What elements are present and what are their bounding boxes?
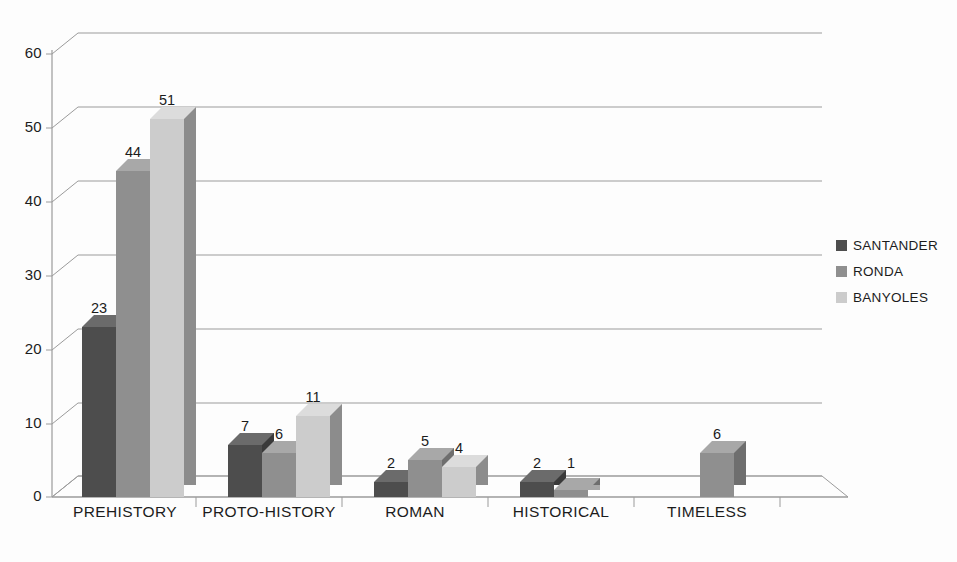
y-tick-50: 50 <box>4 118 42 135</box>
x-tick-historical: HISTORICAL <box>488 503 634 521</box>
bar-proto-history-banyoles <box>296 416 330 497</box>
y-tick-0: 0 <box>4 487 42 504</box>
bar-face <box>82 327 116 497</box>
bar-roman-banyoles <box>442 467 476 497</box>
bar-value-label: 44 <box>116 144 150 160</box>
bar-value-label: 6 <box>262 426 296 442</box>
bar-value-label: 4 <box>442 440 476 456</box>
y-tick-30: 30 <box>4 266 42 283</box>
bar-face <box>700 453 734 497</box>
bar-value-label: 11 <box>296 389 330 405</box>
bar-prehistory-ronda <box>116 171 150 497</box>
y-tick-20: 20 <box>4 340 42 357</box>
bar-face <box>116 171 150 497</box>
bar-value-label: 1 <box>554 455 588 471</box>
bar-value-label: 7 <box>228 418 262 434</box>
legend-swatch-icon <box>836 292 847 303</box>
legend-label: RONDA <box>853 264 903 279</box>
x-tick-timeless: TIMELESS <box>634 503 780 521</box>
bar-side <box>184 107 196 485</box>
bar-chart: 60 50 40 30 20 10 0 23 44 51 <box>0 0 957 562</box>
y-tick-60: 60 <box>4 44 42 61</box>
bar-face <box>442 467 476 497</box>
legend-item-ronda: RONDA <box>836 258 954 284</box>
bar-face <box>374 482 408 497</box>
x-tick-proto-history: PROTO-HISTORY <box>196 503 342 521</box>
bar-value-label: 5 <box>408 433 442 449</box>
legend-item-banyoles: BANYOLES <box>836 284 954 310</box>
y-tick-40: 40 <box>4 192 42 209</box>
bar-roman-ronda <box>408 460 442 497</box>
legend-swatch-icon <box>836 266 847 277</box>
bar-face <box>228 445 262 497</box>
bar-value-label: 2 <box>520 455 554 471</box>
gridline-60 <box>52 33 822 54</box>
bar-historical-ronda <box>554 490 588 497</box>
bar-face <box>296 416 330 497</box>
bar-face <box>554 490 588 497</box>
x-tick-roman: ROMAN <box>342 503 488 521</box>
legend-label: SANTANDER <box>853 238 938 253</box>
bar-prehistory-banyoles <box>150 119 184 497</box>
bar-historical-santander <box>520 482 554 497</box>
bar-value-label: 51 <box>150 92 184 108</box>
bar-face <box>408 460 442 497</box>
x-tick-prehistory: PREHISTORY <box>54 503 196 521</box>
bar-value-label: 23 <box>82 300 116 316</box>
bar-roman-santander <box>374 482 408 497</box>
y-tick-10: 10 <box>4 414 42 431</box>
legend-item-santander: SANTANDER <box>836 232 954 258</box>
legend-swatch-icon <box>836 240 847 251</box>
bar-face <box>520 482 554 497</box>
legend-label: BANYOLES <box>853 290 928 305</box>
bar-prehistory-santander <box>82 327 116 497</box>
chart-legend: SANTANDER RONDA BANYOLES <box>836 232 954 310</box>
bar-side <box>330 404 342 485</box>
bar-face <box>150 119 184 497</box>
bar-proto-history-santander <box>228 445 262 497</box>
bar-value-label: 2 <box>374 455 408 471</box>
bar-value-label: 6 <box>700 426 734 442</box>
bar-proto-history-ronda <box>262 453 296 497</box>
bar-face <box>262 453 296 497</box>
bar-top <box>554 478 600 490</box>
plot-area: 60 50 40 30 20 10 0 23 44 51 <box>0 0 957 562</box>
bar-timeless-ronda <box>700 453 734 497</box>
